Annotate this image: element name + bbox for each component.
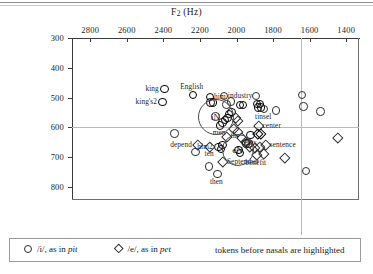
y-axis-tick-label: 600 (30, 122, 64, 132)
x-axis-tick (127, 38, 128, 42)
y-axis-tick-label: 800 (30, 182, 64, 192)
data-point-label: then (210, 177, 223, 186)
legend-label-i: /i/, as in pit (37, 244, 78, 254)
page-top-rule (0, 2, 373, 3)
legend-entry-e: /e/, as in pet (115, 244, 171, 254)
y-axis-tick (68, 68, 72, 69)
y-axis-tick (68, 187, 72, 188)
data-point-circle (160, 85, 168, 93)
x-axis-tick (200, 38, 201, 42)
x-axis-tick-label: 1400 (326, 25, 366, 35)
data-point-circle (298, 91, 306, 99)
data-point-circle (272, 106, 280, 114)
x-axis-tick-label: 2800 (70, 25, 110, 35)
legend-label-i-text: /i/, as in (37, 244, 68, 254)
y-axis-tick-label: 500 (30, 93, 64, 103)
y-axis-tick-label: 400 (30, 63, 64, 73)
legend-label-e-text: /e/, as in (127, 244, 160, 254)
y-axis-tick-label: 700 (30, 152, 64, 162)
x-axis-tick-label: 2000 (217, 25, 257, 35)
x-axis-tick (90, 38, 91, 42)
x-axis-title-unit: (Hz) (181, 7, 202, 17)
data-point-label: sentence (270, 140, 296, 149)
legend: /i/, as in pit /e/, as in pet tokens bef… (9, 238, 361, 262)
x-axis-title: F2 (Hz) (0, 7, 373, 18)
x-axis-tick-label: 1600 (290, 25, 330, 35)
data-point-label: king's2 (136, 97, 157, 106)
legend-note: tokens before nasals are highlighted (215, 245, 344, 255)
data-point-label: English (180, 82, 203, 91)
data-point-circle (170, 129, 178, 137)
plot-frame-right (358, 38, 359, 199)
vowel-category-annotation: iN (198, 99, 234, 135)
x-axis-tick-label: 2400 (143, 25, 183, 35)
data-point-label: depend (170, 140, 192, 149)
data-point-circle (299, 102, 307, 110)
x-axis-tick-label: 1800 (253, 25, 293, 35)
y-axis-tick (68, 38, 72, 39)
data-point-circle (158, 98, 166, 106)
vowel-category-annotation: eN (222, 134, 254, 166)
legend-label-e-word: pet (160, 244, 171, 254)
x-axis-tick (237, 38, 238, 42)
y-axis-tick (68, 157, 72, 158)
x-axis-tick (273, 38, 274, 42)
x-axis-tick (346, 38, 347, 42)
data-point-label: ten (205, 149, 214, 158)
data-point-circle (316, 107, 324, 115)
data-point-label: tinsel (255, 112, 271, 121)
formant-scatter-figure: F2 (Hz) F1 (Hz) 280026002400220020001800… (0, 0, 373, 274)
legend-label-i-word: pit (68, 244, 78, 254)
circle-marker-icon (24, 245, 32, 253)
data-point-label: industry (228, 91, 253, 100)
x-axis-tick (163, 38, 164, 42)
legend-entry-i: /i/, as in pit (24, 244, 78, 254)
gridline-vertical (301, 38, 302, 235)
y-axis-tick (68, 127, 72, 128)
y-axis-tick-label: 300 (30, 33, 64, 43)
x-axis-tick-label: 2600 (107, 25, 147, 35)
x-axis-tick (310, 38, 311, 42)
data-point-label: center (263, 121, 281, 130)
data-point-circle (189, 91, 197, 99)
plot-frame-bottom (72, 199, 359, 200)
x-axis-tick-label: 2200 (180, 25, 220, 35)
y-axis-tick (68, 98, 72, 99)
diamond-marker-icon (113, 244, 123, 254)
legend-label-e: /e/, as in pet (127, 244, 171, 254)
data-point-label: king (145, 84, 158, 93)
page-top-rule-2 (0, 5, 373, 6)
